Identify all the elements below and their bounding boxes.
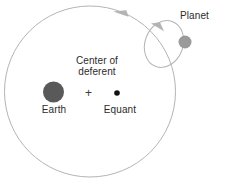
center-of-deferent-marker: + bbox=[83, 88, 94, 99]
label-equant: Equant bbox=[95, 104, 145, 115]
label-earth: Earth bbox=[30, 104, 78, 115]
diagram-canvas bbox=[0, 0, 227, 189]
ptolemaic-deferent-epicycle-diagram: + Center of deferent Earth Equant Planet bbox=[0, 0, 227, 189]
deferent-direction-arrow-icon bbox=[113, 10, 129, 17]
label-planet: Planet bbox=[180, 10, 226, 21]
equant-marker bbox=[114, 90, 120, 96]
label-center-of-deferent: Center of deferent bbox=[60, 55, 134, 77]
planet-body bbox=[179, 36, 192, 49]
earth-body bbox=[43, 82, 64, 103]
